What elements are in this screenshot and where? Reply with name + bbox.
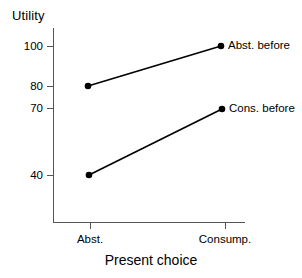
series-line-abst-before (88, 46, 221, 86)
series-line-cons-before (89, 109, 222, 175)
chart-figure: Utility 100 80 70 40 Abst. Consump. (0, 0, 302, 278)
data-point-abst-before-consump (218, 43, 225, 50)
data-point-abst-before-abst (85, 83, 92, 90)
series-label-cons-before: Cons. before (229, 102, 295, 115)
data-point-cons-before-abst (86, 172, 93, 179)
x-axis-title: Present choice (0, 252, 302, 268)
plot-area: 100 80 70 40 Abst. Consump. Abst. before… (0, 0, 302, 278)
data-point-cons-before-consump (219, 106, 226, 113)
series-label-abst-before: Abst. before (228, 39, 290, 52)
